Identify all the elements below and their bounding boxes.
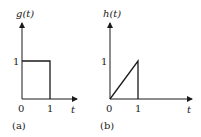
x-tick-0: 0 [18,103,24,114]
x-tick-0: 0 [106,103,112,114]
panel-b: h(t) t 1 0 1 (b) [100,8,192,131]
panel-a: g(t) t 1 0 1 (a) [12,8,77,131]
y-axis-label: g(t) [16,8,34,19]
caption-b: (b) [100,120,114,131]
x-tick-1: 1 [135,103,141,114]
ramp-curve [110,61,138,99]
figure: g(t) t 1 0 1 (a) h(t) t 1 0 1 (b) [0,0,201,137]
pulse-curve [22,61,50,99]
y-tick-1: 1 [101,56,107,67]
y-tick-1: 1 [13,56,19,67]
x-axis-label: t [187,104,192,115]
x-axis-label: t [71,104,76,115]
x-tick-1: 1 [47,103,53,114]
y-axis-label: h(t) [103,8,121,19]
caption-a: (a) [12,120,26,131]
